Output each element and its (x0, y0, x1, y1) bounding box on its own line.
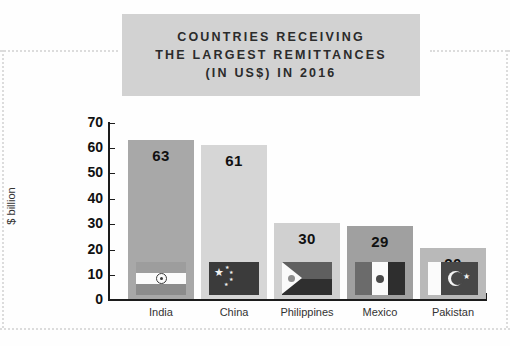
x-axis-line (108, 299, 487, 301)
bar-india[interactable]: 63 (128, 140, 194, 299)
bar-value-label: 61 (201, 152, 267, 169)
flag-mexico-icon (355, 262, 405, 295)
y-axis-tick (108, 123, 115, 124)
bar-philippines[interactable]: 30 (274, 223, 340, 299)
x-tick-label-philippines: Philippines (274, 306, 340, 318)
y-axis-tick (108, 275, 115, 276)
dotted-rule-top-left (0, 50, 118, 52)
bar-value-label: 63 (128, 147, 194, 164)
flag-pakistan-icon: ★ (428, 262, 478, 295)
flag-philippines-icon (282, 262, 332, 295)
bar-value-label: 29 (347, 233, 413, 250)
y-axis-tick (108, 250, 115, 251)
bar-china[interactable]: 61 ★ ★ ★ ★ ★ (201, 145, 267, 299)
x-tick-label-mexico: Mexico (347, 306, 413, 318)
chart-title-line-3: (IN US$) IN 2016 (205, 64, 336, 82)
chart-title-line-1: COUNTRIES RECEIVING (177, 28, 365, 46)
y-axis-tick (108, 199, 115, 200)
x-tick-label-china: China (201, 306, 267, 318)
bar-value-label: 30 (274, 230, 340, 247)
chart-title-banner: COUNTRIES RECEIVING THE LARGEST REMITTAN… (122, 14, 420, 96)
x-tick-label-pakistan: Pakistan (420, 306, 486, 318)
y-axis-tick (108, 224, 115, 225)
flag-india-icon (136, 262, 186, 295)
dotted-rule-top-right (430, 50, 510, 52)
bar-chart: $ billion 70 60 50 40 30 20 10 0 63 Indi (0, 100, 510, 346)
flag-china-icon: ★ ★ ★ ★ ★ (209, 262, 259, 295)
bar-pakistan[interactable]: 20 ★ (420, 248, 486, 299)
bar-mexico[interactable]: 29 (347, 226, 413, 299)
infographic-canvas: COUNTRIES RECEIVING THE LARGEST REMITTAN… (0, 0, 510, 346)
y-axis-tick (108, 173, 115, 174)
y-axis-tick (108, 148, 115, 149)
y-axis-tick-labels: 70 60 50 40 30 20 10 0 (0, 100, 103, 310)
chart-title-line-2: THE LARGEST REMITTANCES (155, 46, 387, 64)
x-tick-label-india: India (128, 306, 194, 318)
